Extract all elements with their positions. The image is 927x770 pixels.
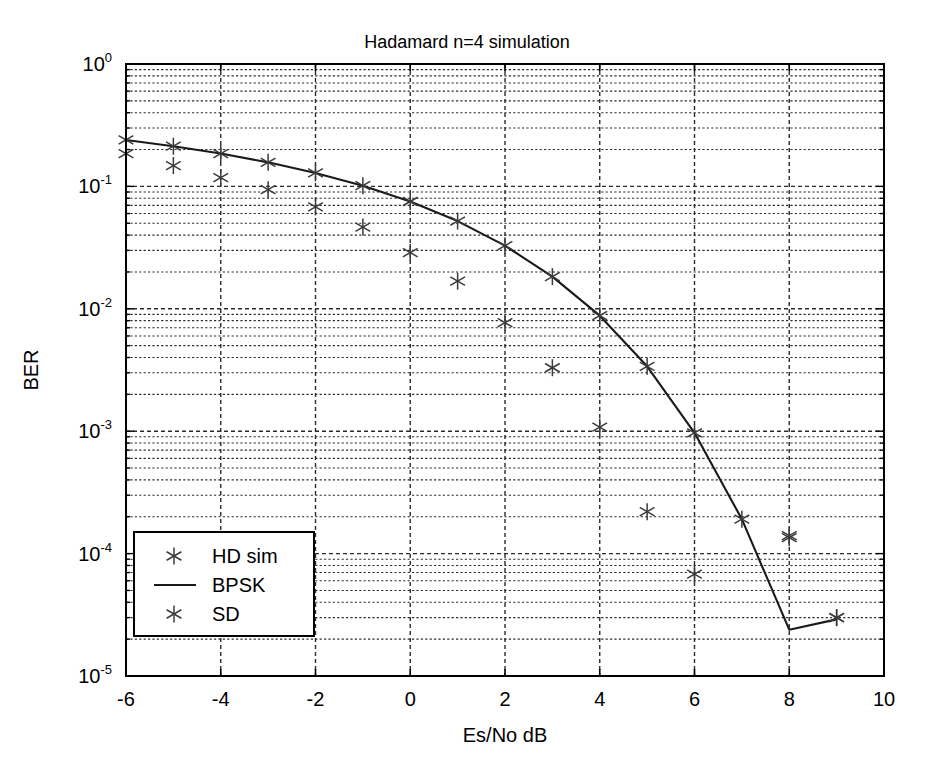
x-tick-labels: -6-4-20246810 <box>117 688 895 710</box>
x-tick-label: 4 <box>594 688 605 710</box>
y-tick-label: 10-4 <box>78 540 112 565</box>
x-tick-label: 8 <box>784 688 795 710</box>
legend-label: SD <box>212 603 240 625</box>
x-axis-label: Es/No dB <box>463 724 547 746</box>
x-tick-label: -2 <box>307 688 325 710</box>
y-axis-label: BER <box>20 349 42 390</box>
x-tick-label: -4 <box>212 688 230 710</box>
legend-label: HD sim <box>212 545 278 567</box>
y-tick-label: 100 <box>83 50 112 75</box>
x-tick-label: 6 <box>689 688 700 710</box>
ber-chart: -6-4-2024681010010-110-210-310-410-5Es/N… <box>0 0 927 770</box>
x-tick-label: 0 <box>405 688 416 710</box>
chart-title: Hadamard n=4 simulation <box>364 32 570 52</box>
x-tick-label: 10 <box>873 688 895 710</box>
y-tick-label: 10-2 <box>78 295 112 320</box>
legend[interactable]: HD simBPSKSD <box>134 532 314 636</box>
x-tick-label: 2 <box>499 688 510 710</box>
y-tick-labels: 10010-110-210-310-410-5 <box>78 50 112 687</box>
y-tick-label: 10-1 <box>78 172 112 197</box>
legend-label: BPSK <box>212 574 266 596</box>
chart-root: -6-4-2024681010010-110-210-310-410-5Es/N… <box>0 0 927 770</box>
x-tick-label: -6 <box>117 688 135 710</box>
y-tick-label: 10-5 <box>78 662 112 687</box>
y-tick-label: 10-3 <box>78 417 112 442</box>
